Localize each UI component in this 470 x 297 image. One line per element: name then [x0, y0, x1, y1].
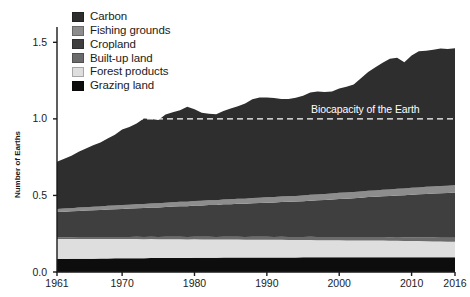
legend-swatch-icon [72, 12, 84, 22]
legend-swatch-icon [72, 81, 84, 91]
x-tick-label-2000: 2000 [316, 278, 362, 289]
y-tick-label-1.0: 1.0 [17, 113, 47, 124]
biocapacity-annotation: Biocapacity of the Earth [311, 103, 420, 115]
legend-label: Fishing grounds [90, 25, 170, 37]
y-tick-label-0.0: 0.0 [17, 267, 47, 278]
legend-swatch-icon [72, 67, 84, 77]
x-tick-label-2016: 2016 [432, 278, 470, 289]
legend-item-built-up-land[interactable]: Built-up land [72, 51, 170, 65]
area-forest-products [57, 239, 455, 259]
area-grazing-land [57, 257, 455, 272]
legend-label: Carbon [90, 11, 127, 23]
legend-item-fishing-grounds[interactable]: Fishing grounds [72, 24, 170, 38]
legend-label: Grazing land [90, 80, 154, 92]
footprint-area-chart: Number of Earths 0.00.51.01.5 1961197019… [0, 0, 470, 297]
legend-swatch-icon [72, 39, 84, 49]
y-tick-label-1.5: 1.5 [17, 37, 47, 48]
y-tick-label-0.5: 0.5 [17, 190, 47, 201]
x-tick-label-1990: 1990 [244, 278, 290, 289]
legend-item-grazing-land[interactable]: Grazing land [72, 79, 170, 93]
legend-swatch-icon [72, 26, 84, 36]
legend: CarbonFishing groundsCroplandBuilt-up la… [72, 10, 170, 93]
plot-canvas [0, 0, 470, 297]
x-tick-label-1961: 1961 [34, 278, 80, 289]
legend-swatch-icon [72, 53, 84, 63]
legend-item-carbon[interactable]: Carbon [72, 10, 170, 24]
legend-item-cropland[interactable]: Cropland [72, 38, 170, 52]
legend-item-forest-products[interactable]: Forest products [72, 65, 170, 79]
x-tick-label-1980: 1980 [171, 278, 217, 289]
legend-label: Built-up land [90, 53, 153, 65]
x-tick-label-1970: 1970 [99, 278, 145, 289]
legend-label: Cropland [90, 39, 136, 51]
x-tick-label-2010: 2010 [389, 278, 435, 289]
legend-label: Forest products [90, 66, 168, 78]
